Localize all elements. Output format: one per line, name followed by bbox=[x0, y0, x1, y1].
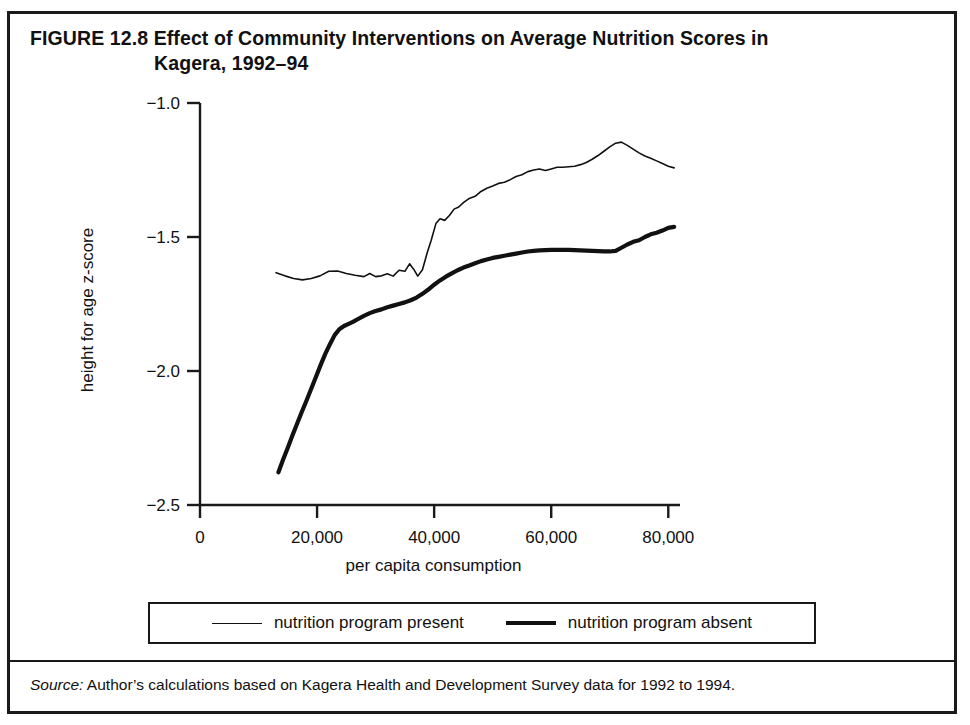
series-line-program-absent bbox=[278, 227, 674, 472]
source-prefix: Source: bbox=[30, 676, 83, 693]
x-axis-label: per capita consumption bbox=[200, 556, 667, 576]
y-tick-label: −1.0 bbox=[146, 94, 180, 113]
series-line-program-present bbox=[276, 142, 674, 280]
x-tick-label: 80,000 bbox=[642, 528, 694, 547]
y-tick-label: −1.5 bbox=[146, 228, 180, 247]
figure-container: FIGURE 12.8 Effect of Community Interven… bbox=[0, 0, 970, 725]
axes-group bbox=[200, 103, 680, 505]
data-series-group bbox=[276, 142, 674, 472]
x-tick-label: 60,000 bbox=[525, 528, 577, 547]
source-note: Source: Author’s calculations based on K… bbox=[30, 676, 930, 694]
y-axis-ticks: −1.0−1.5−2.0−2.5 bbox=[146, 94, 200, 515]
legend-item-program-present: nutrition program present bbox=[212, 613, 464, 633]
x-axis-ticks: 020,00040,00060,00080,000 bbox=[195, 505, 694, 547]
x-tick-label: 40,000 bbox=[408, 528, 460, 547]
legend-label-program-present: nutrition program present bbox=[274, 613, 464, 633]
source-divider bbox=[9, 660, 955, 662]
legend-line-thin-icon bbox=[212, 623, 262, 624]
source-text: Author’s calculations based on Kagera He… bbox=[83, 676, 735, 693]
legend-label-program-absent: nutrition program absent bbox=[568, 613, 752, 633]
legend-line-thick-icon bbox=[506, 621, 556, 625]
y-tick-label: −2.5 bbox=[146, 496, 180, 515]
x-tick-label: 20,000 bbox=[291, 528, 343, 547]
x-tick-label: 0 bbox=[195, 528, 204, 547]
y-axis-label: height for age z-score bbox=[78, 180, 98, 440]
chart-legend: nutrition program present nutrition prog… bbox=[148, 602, 816, 644]
y-tick-label: −2.0 bbox=[146, 362, 180, 381]
legend-item-program-absent: nutrition program absent bbox=[506, 613, 752, 633]
